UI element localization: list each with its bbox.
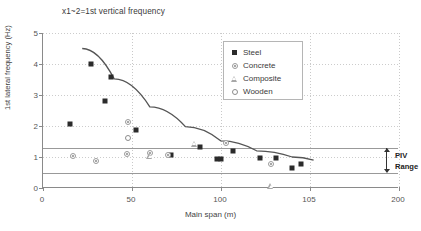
x-tick-label: 0 bbox=[22, 195, 62, 204]
data-point-steel bbox=[231, 149, 236, 154]
y-tick-label: 4 bbox=[8, 60, 38, 69]
chart-title: x1~2=1st vertical frequency bbox=[62, 7, 165, 16]
data-point-concrete bbox=[93, 158, 99, 164]
data-point-concrete bbox=[124, 151, 130, 157]
data-point-steel bbox=[258, 155, 263, 160]
data-point-wooden bbox=[125, 135, 131, 141]
data-point-steel bbox=[274, 155, 279, 160]
legend-label: Concrete bbox=[243, 61, 275, 70]
data-point-steel bbox=[299, 161, 304, 166]
y-tick bbox=[39, 188, 43, 189]
data-point-steel bbox=[133, 127, 138, 132]
data-point-composite bbox=[268, 183, 274, 189]
open-triangle-icon bbox=[230, 74, 239, 83]
legend-item-steel[interactable]: Steel bbox=[230, 46, 302, 59]
legend-label: Wooden bbox=[243, 87, 273, 96]
y-tick-label: 0 bbox=[8, 184, 38, 193]
x-tick-label: 100 bbox=[200, 195, 240, 204]
y-tick-label: 1 bbox=[8, 153, 38, 162]
dotted-circle-icon bbox=[230, 61, 239, 70]
x-axis-title: Main span (m) bbox=[0, 210, 421, 219]
piv-arrow-head-down bbox=[384, 169, 390, 173]
filled-square-icon bbox=[230, 48, 239, 57]
y-tick-label: 2 bbox=[8, 122, 38, 131]
data-point-composite bbox=[191, 141, 197, 147]
data-point-steel bbox=[89, 62, 94, 67]
x-tick-label: 200 bbox=[378, 195, 418, 204]
piv-arrow-head-up bbox=[384, 148, 390, 152]
legend-label: Steel bbox=[243, 48, 261, 57]
plot-area: PIV Range bbox=[42, 33, 398, 188]
chart-legend: SteelConcreteCompositeWooden bbox=[223, 41, 303, 100]
data-point-steel bbox=[108, 75, 113, 80]
x-tick bbox=[399, 187, 400, 191]
x-tick-label: 50 bbox=[111, 195, 151, 204]
y-tick-label: 3 bbox=[8, 91, 38, 100]
x-tick-label: 105 bbox=[289, 195, 329, 204]
data-point-steel bbox=[197, 145, 202, 150]
data-point-steel bbox=[67, 121, 72, 126]
data-point-steel bbox=[103, 98, 108, 103]
chart-figure: x1~2=1st vertical frequency 1st lateral … bbox=[0, 0, 421, 231]
legend-item-wooden[interactable]: Wooden bbox=[230, 85, 302, 98]
legend-item-concrete[interactable]: Concrete bbox=[230, 59, 302, 72]
data-point-concrete bbox=[165, 152, 171, 158]
y-tick-label: 5 bbox=[8, 29, 38, 38]
data-point-steel bbox=[219, 157, 224, 162]
data-point-concrete bbox=[223, 140, 229, 146]
data-point-steel bbox=[290, 166, 295, 171]
open-circle-icon bbox=[230, 87, 239, 96]
legend-item-composite[interactable]: Composite bbox=[230, 72, 302, 85]
piv-label-line2: Range bbox=[395, 162, 418, 171]
data-point-concrete bbox=[268, 161, 274, 167]
data-point-concrete bbox=[125, 119, 131, 125]
piv-label-line1: PIV bbox=[395, 151, 407, 160]
data-point-concrete bbox=[70, 153, 76, 159]
legend-label: Composite bbox=[243, 74, 281, 83]
trend-curve bbox=[43, 33, 399, 188]
data-point-composite bbox=[147, 153, 153, 159]
